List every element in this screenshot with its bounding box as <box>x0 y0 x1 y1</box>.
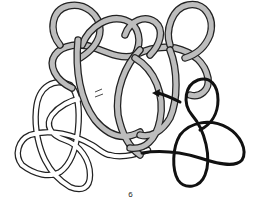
knot-diagram <box>0 0 261 215</box>
cut-lines <box>95 89 103 97</box>
step-label: 6 <box>0 190 261 199</box>
